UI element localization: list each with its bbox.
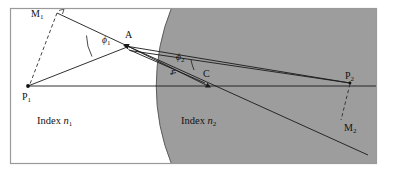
label-point-m2: M2 (344, 123, 356, 135)
label-point-a: A (125, 30, 132, 42)
label-point-p2: P2 (345, 71, 354, 83)
label-index-n1: Index n1 (37, 116, 72, 128)
label-angle-phi1: ϕ1 (102, 36, 110, 47)
label-angle-phi2: ϕ2 (176, 53, 184, 64)
point-marker-p1 (26, 84, 30, 88)
label-radius-r: r (171, 68, 175, 78)
optics-diagram-svg (0, 0, 393, 176)
label-point-p1: P1 (22, 92, 31, 104)
label-index-n2: Index n2 (181, 116, 216, 128)
label-point-m1: M1 (31, 9, 43, 21)
diagram-content (10, 8, 377, 164)
label-point-c: C (203, 69, 210, 81)
figure-canvas: M1 P1 A C P2 M2 ϕ1 ϕ2 r Index n1 Index n… (0, 0, 393, 176)
